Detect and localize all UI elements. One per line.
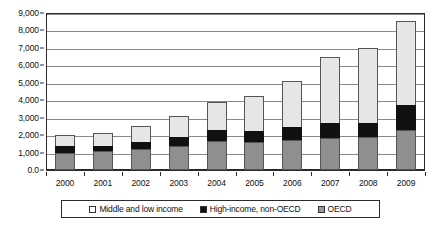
bar-segment-oecd [244, 142, 264, 170]
x-axis-tick-label: 2005 [245, 178, 264, 188]
x-tickmark [387, 172, 388, 176]
legend-item[interactable]: Middle and low income [89, 204, 182, 214]
y-tickmark [40, 117, 44, 118]
y-axis: 0.01,0002,0003,0004,0005,0006,0007,0008,… [0, 13, 44, 171]
stacked-bar-chart: 0.01,0002,0003,0004,0005,0006,0007,0008,… [0, 0, 432, 234]
x-tickmark [160, 172, 161, 176]
y-axis-tick-label: 9,000 [18, 8, 39, 18]
legend-label: High-income, non-OECD [210, 204, 301, 214]
bar-group [244, 96, 264, 170]
bar-group [93, 133, 113, 170]
y-tickmark [40, 82, 44, 83]
y-axis-tick-label: 3,000 [18, 113, 39, 123]
legend-swatch-icon [89, 206, 96, 213]
y-tickmark [40, 100, 44, 101]
bar-segment-oecd [207, 141, 227, 170]
x-axis-tick-label: 2000 [56, 178, 75, 188]
x-axis: 2000200120022003200420052006200720082009 [46, 172, 425, 192]
bar-segment-oecd [93, 151, 113, 170]
x-axis-tick-label: 2001 [94, 178, 113, 188]
bar-segment-high-income-non-oecd [169, 137, 189, 146]
bar-segment-oecd [396, 130, 416, 170]
bar-segment-high-income-non-oecd [282, 127, 302, 140]
bar-group [55, 135, 75, 170]
x-axis-tick-label: 2009 [397, 178, 416, 188]
bar-group [396, 21, 416, 170]
legend-item[interactable]: OECD [318, 204, 352, 214]
y-axis-tick-label: 1,000 [18, 148, 39, 158]
legend-label: OECD [328, 204, 352, 214]
x-tickmark [311, 172, 312, 176]
bar-segment-middle-and-low-income [93, 133, 113, 145]
y-tickmark [40, 30, 44, 31]
x-tickmark [122, 172, 123, 176]
bar-group [207, 102, 227, 170]
y-axis-tick-label: 2,000 [18, 130, 39, 140]
legend-item[interactable]: High-income, non-OECD [200, 204, 301, 214]
x-tickmark [273, 172, 274, 176]
bar-segment-middle-and-low-income [320, 57, 340, 123]
x-tickmark [349, 172, 350, 176]
y-axis-tick-label: 4,000 [18, 95, 39, 105]
bar-segment-oecd [320, 138, 340, 170]
bar-segment-middle-and-low-income [131, 126, 151, 142]
bar-segment-middle-and-low-income [207, 102, 227, 130]
x-tickmark [236, 172, 237, 176]
x-tickmark [46, 172, 47, 176]
bar-segment-middle-and-low-income [396, 21, 416, 106]
bar-segment-high-income-non-oecd [320, 123, 340, 138]
legend-label: Middle and low income [99, 204, 182, 214]
bar-segment-middle-and-low-income [169, 116, 189, 137]
bar-segment-high-income-non-oecd [396, 105, 416, 129]
bar-segment-middle-and-low-income [358, 48, 378, 122]
y-axis-tick-label: 5,000 [18, 78, 39, 88]
bar-segment-oecd [358, 137, 378, 170]
bars-layer [46, 13, 425, 171]
x-axis-tick-label: 2006 [283, 178, 302, 188]
y-tickmark [40, 65, 44, 66]
bar-group [131, 126, 151, 170]
x-axis-tick-label: 2003 [169, 178, 188, 188]
bar-group [358, 48, 378, 170]
bar-segment-high-income-non-oecd [131, 142, 151, 149]
bar-segment-oecd [131, 149, 151, 170]
y-axis-tick-label: 6,000 [18, 60, 39, 70]
x-axis-tick-label: 2008 [359, 178, 378, 188]
x-axis-tick-label: 2002 [131, 178, 150, 188]
bar-group [169, 116, 189, 170]
bar-group [282, 81, 302, 170]
x-tickmark [425, 172, 426, 176]
bar-segment-high-income-non-oecd [358, 123, 378, 137]
x-tickmark [198, 172, 199, 176]
legend-swatch-icon [318, 206, 325, 213]
y-axis-tick-label: 8,000 [18, 25, 39, 35]
y-tickmark [40, 13, 44, 14]
bar-segment-middle-and-low-income [55, 135, 75, 146]
y-tickmark [40, 135, 44, 136]
bar-segment-high-income-non-oecd [244, 131, 264, 142]
chart-legend: Middle and low incomeHigh-income, non-OE… [61, 200, 380, 218]
y-tickmark [40, 47, 44, 48]
y-axis-tick-label: 7,000 [18, 43, 39, 53]
legend-swatch-icon [200, 206, 207, 213]
bar-segment-oecd [282, 140, 302, 170]
x-axis-tick-label: 2007 [321, 178, 340, 188]
x-tickmark [84, 172, 85, 176]
bar-segment-oecd [169, 146, 189, 170]
x-axis-tick-label: 2004 [207, 178, 226, 188]
y-tickmark [40, 152, 44, 153]
bar-segment-middle-and-low-income [282, 81, 302, 128]
bar-segment-oecd [55, 153, 75, 170]
bar-segment-middle-and-low-income [244, 96, 264, 130]
bar-segment-high-income-non-oecd [207, 130, 227, 141]
y-axis-tick-label: 0.0 [27, 165, 39, 175]
y-tickmark [40, 170, 44, 171]
bar-group [320, 57, 340, 170]
